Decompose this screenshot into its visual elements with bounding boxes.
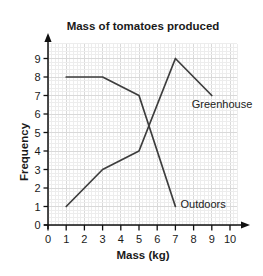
y-tick-label: 0 [34,219,40,231]
x-tick-label: 4 [118,233,124,245]
y-tick-label: 6 [34,108,40,120]
y-tick-label: 5 [34,127,40,139]
y-tick-label: 2 [34,182,40,194]
chart-title: Mass of tomatoes produced [67,20,220,32]
y-tick-label: 7 [34,90,40,102]
x-axis-label: Mass (kg) [116,249,169,261]
greenhouse-series-label: Greenhouse [192,98,253,110]
y-tick-label: 8 [34,71,40,83]
x-tick-label: 7 [172,233,178,245]
x-tick-label: 8 [191,233,197,245]
y-axis-arrow-icon [44,33,51,42]
x-tick-label: 5 [136,233,142,245]
x-tick-label: 6 [154,233,160,245]
outdoors-series-label: Outdoors [180,198,226,210]
x-tick-label: 9 [209,233,215,245]
chart-figure: 0123456789100123456789 Greenhouse Outdoo… [0,0,263,276]
y-tick-label: 1 [34,201,40,213]
y-tick-label: 4 [34,145,40,157]
x-tick-label: 2 [81,233,87,245]
line-chart: 0123456789100123456789 Greenhouse Outdoo… [0,0,263,276]
x-tick-label: 1 [63,233,69,245]
y-tick-label: 9 [34,53,40,65]
x-tick-label: 3 [100,233,106,245]
x-tick-label: 10 [224,233,236,245]
y-axis-label: Frequency [18,122,30,181]
y-tick-label: 3 [34,164,40,176]
x-axis-arrow-icon [241,221,250,228]
x-tick-label: 0 [45,233,51,245]
